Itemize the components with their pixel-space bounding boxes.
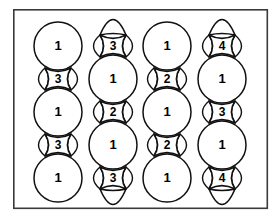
column-4-neck-2-label: 4	[219, 171, 226, 185]
column-2-neck-0-label: 3	[110, 39, 117, 53]
column-4-bead-1-label: 1	[218, 137, 225, 152]
column-1-neck-1-label: 3	[55, 138, 62, 152]
column-4-bead-0-label: 1	[218, 71, 225, 86]
column-2-bead-1-label: 1	[109, 137, 116, 152]
column-3-bead-0-label: 1	[163, 38, 170, 53]
column-2-bead-0-label: 1	[109, 71, 116, 86]
column-1-bead-0-label: 1	[54, 38, 61, 53]
column-1-neck-0-label: 3	[55, 72, 62, 86]
column-2-neck-1-label: 2	[110, 105, 117, 119]
column-4-neck-0-label: 4	[219, 39, 226, 53]
column-1-bead-2-label: 1	[54, 170, 61, 185]
figure-root: 11133113231112211434	[0, 0, 280, 219]
column-4-neck-1-label: 3	[219, 105, 226, 119]
column-2-neck-2-label: 3	[110, 171, 117, 185]
column-3-neck-1-label: 2	[164, 138, 171, 152]
column-3-bead-1-label: 1	[163, 104, 170, 119]
column-3-bead-2-label: 1	[163, 170, 170, 185]
column-3-neck-0-label: 2	[164, 72, 171, 86]
column-1-bead-1-label: 1	[54, 104, 61, 119]
bead-chain-diagram: 11133113231112211434	[0, 0, 280, 219]
